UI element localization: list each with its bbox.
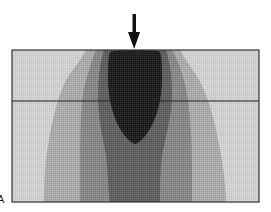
panel-label: A xyxy=(0,193,4,205)
contour-diagram xyxy=(0,0,271,212)
load-arrow-icon xyxy=(128,14,140,49)
